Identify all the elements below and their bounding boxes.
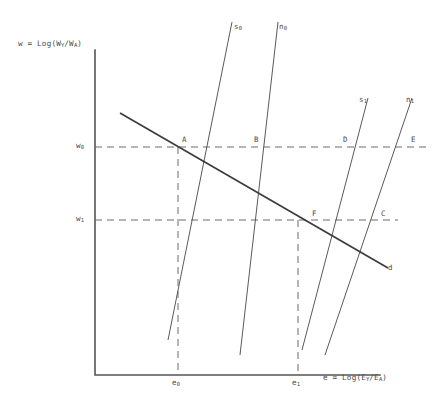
y-tick-label-w1: w1 bbox=[76, 215, 84, 224]
curve-s0 bbox=[168, 22, 232, 340]
curve-label-d: d bbox=[388, 264, 393, 271]
x-axis-label: e = Log(EY/EA) bbox=[323, 374, 387, 383]
curve-label-n1-sub: 1 bbox=[411, 98, 414, 104]
x-axis-label-mid: /E bbox=[369, 373, 379, 382]
diagram-canvas bbox=[0, 0, 438, 406]
point-label-E: E bbox=[411, 136, 416, 143]
curve-label-s0-sub: 0 bbox=[239, 25, 242, 31]
axis-lines bbox=[95, 50, 380, 375]
point-label-A: A bbox=[182, 136, 187, 143]
curve-label-s1-sub: 1 bbox=[364, 98, 367, 104]
x-tick-label-e1: e1 bbox=[292, 379, 300, 388]
x-tick-label-e0: e0 bbox=[172, 379, 180, 388]
point-label-D: D bbox=[343, 136, 348, 143]
curve-label-s1: s1 bbox=[359, 96, 367, 105]
x-axis-label-base: e = Log(E bbox=[323, 373, 366, 382]
x-axis-label-end: ) bbox=[382, 373, 387, 382]
curve-n0 bbox=[240, 22, 278, 355]
point-label-B: B bbox=[254, 136, 259, 143]
y-tick-w0-sub: 0 bbox=[81, 144, 84, 150]
y-axis-label: w = Log(WY/WA) bbox=[18, 40, 82, 49]
y-axis-label-base: w = Log(W bbox=[18, 39, 61, 48]
curve-label-n0-sub: 0 bbox=[284, 25, 287, 31]
curve-n1 bbox=[325, 98, 412, 355]
x-tick-e1-sub: 1 bbox=[297, 381, 300, 387]
point-label-F: F bbox=[312, 210, 317, 217]
curve-label-d-base: d bbox=[388, 263, 393, 272]
curve-label-n1: n1 bbox=[406, 96, 414, 105]
curve-label-s0: s0 bbox=[234, 23, 242, 32]
y-axis-label-mid: /W bbox=[64, 39, 74, 48]
y-tick-label-w0: w0 bbox=[76, 142, 84, 151]
x-tick-e0-sub: 0 bbox=[177, 381, 180, 387]
curve-label-n0: n0 bbox=[279, 23, 287, 32]
y-axis-label-end: ) bbox=[77, 39, 82, 48]
economics-diagram: w = Log(WY/WA) e = Log(EY/EA) w0 w1 e0 e… bbox=[0, 0, 438, 406]
point-label-C: C bbox=[381, 210, 386, 217]
y-tick-w1-sub: 1 bbox=[81, 217, 84, 223]
